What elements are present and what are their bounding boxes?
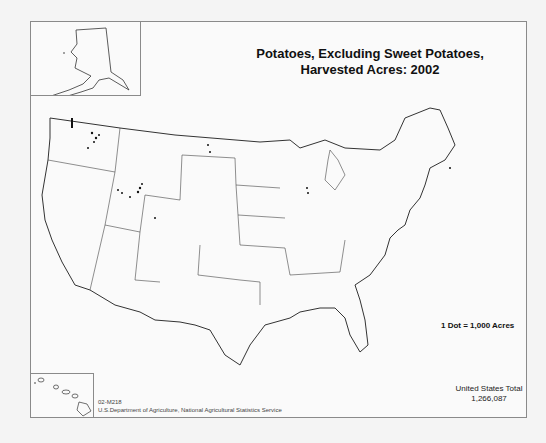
source-credit: 02-M218 U.S.Department of Agriculture, N…: [98, 398, 282, 414]
dot-clusters: [71, 118, 451, 219]
map-title: Potatoes, Excluding Sweet Potatoes, Harv…: [250, 46, 490, 78]
dot-legend: 1 Dot = 1,000 Acres: [441, 321, 514, 330]
map-title-line2: Harvested Acres: 2002: [250, 62, 490, 78]
map-code: 02-M218: [98, 398, 282, 406]
map-title-line1: Potatoes, Excluding Sweet Potatoes,: [250, 46, 490, 62]
us-total-label: United States Total: [444, 384, 534, 394]
us-total: United States Total 1,266,087: [444, 384, 534, 404]
source-text: U.S.Department of Agriculture, National …: [98, 406, 282, 414]
us-total-value: 1,266,087: [444, 394, 534, 404]
